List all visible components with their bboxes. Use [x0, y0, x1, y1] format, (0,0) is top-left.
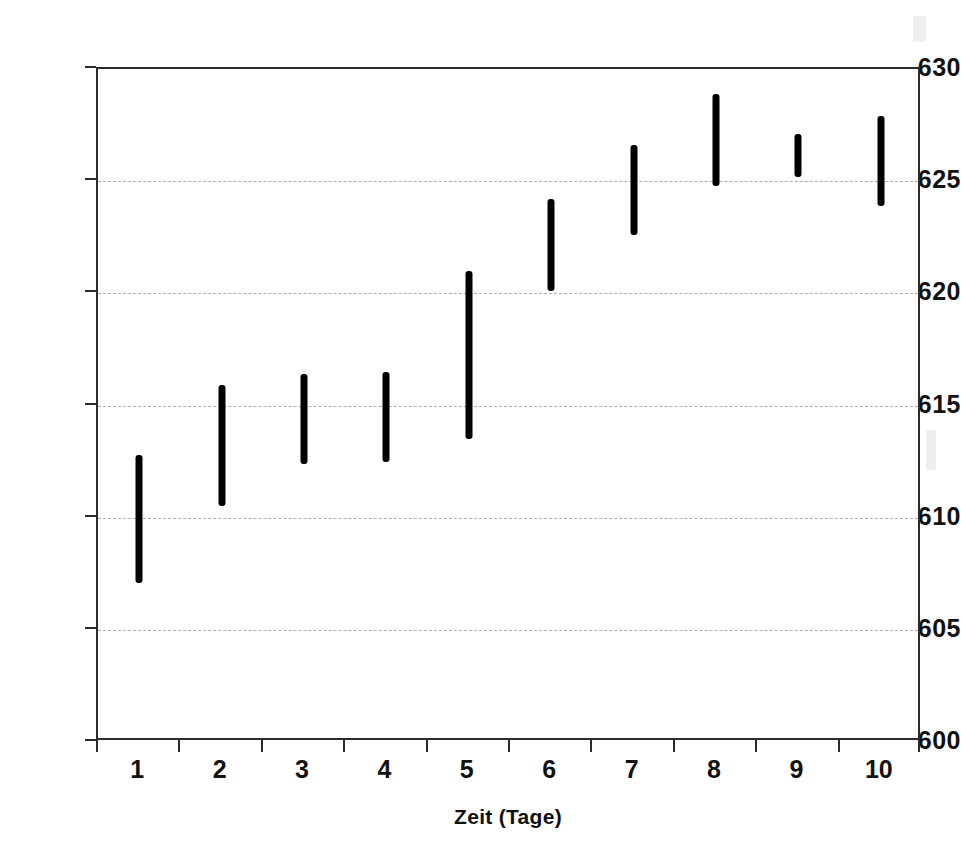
- range-bar: [548, 199, 555, 291]
- chart-page: 600605610615620625630 12345678910 Zeit (…: [0, 0, 961, 864]
- gridline: [98, 518, 918, 519]
- x-axis-tick-label: 2: [185, 757, 255, 782]
- x-axis-title: Zeit (Tage): [96, 805, 920, 829]
- range-bar: [301, 374, 308, 464]
- x-axis-tick-label: 10: [844, 757, 914, 782]
- range-bar: [630, 145, 637, 235]
- x-axis-tick-label: 8: [679, 757, 749, 782]
- x-axis-tick: [838, 740, 840, 752]
- x-axis-tick-label: 1: [102, 757, 172, 782]
- x-axis-tick: [918, 740, 920, 752]
- x-axis-tick-label: 7: [597, 757, 667, 782]
- y-axis-tick: [85, 178, 96, 180]
- x-axis: [96, 740, 920, 754]
- x-axis-tick: [343, 740, 345, 752]
- x-axis-tick: [508, 740, 510, 752]
- range-bar: [877, 116, 884, 206]
- scan-artifact: [913, 16, 926, 42]
- range-bar: [218, 385, 225, 506]
- y-axis-tick: [85, 290, 96, 292]
- x-axis-tick-label: 9: [761, 757, 831, 782]
- range-bar: [136, 455, 143, 583]
- x-axis-tick-label: 3: [267, 757, 337, 782]
- y-axis-tick: [85, 739, 96, 741]
- x-axis-tick: [590, 740, 592, 752]
- y-axis: [0, 67, 96, 740]
- gridline: [98, 630, 918, 631]
- x-axis-tick-label: 5: [432, 757, 502, 782]
- y-axis-tick: [85, 66, 96, 68]
- range-bar: [795, 134, 802, 177]
- gridline: [98, 293, 918, 294]
- x-axis-tick-label: 4: [349, 757, 419, 782]
- y-axis-tick: [85, 403, 96, 405]
- x-axis-tick: [96, 740, 98, 752]
- range-bar: [713, 94, 720, 186]
- x-axis-tick: [755, 740, 757, 752]
- gridline: [98, 181, 918, 182]
- scan-artifact: [926, 430, 936, 470]
- x-axis-tick-label: 6: [514, 757, 584, 782]
- x-axis-tick: [426, 740, 428, 752]
- x-axis-tick: [261, 740, 263, 752]
- range-bar: [465, 271, 472, 439]
- x-axis-labels: 12345678910: [96, 757, 920, 789]
- x-axis-tick: [673, 740, 675, 752]
- x-axis-tick: [178, 740, 180, 752]
- plot-area: [96, 67, 920, 740]
- y-axis-tick: [85, 627, 96, 629]
- range-bar: [383, 372, 390, 462]
- y-axis-tick: [85, 515, 96, 517]
